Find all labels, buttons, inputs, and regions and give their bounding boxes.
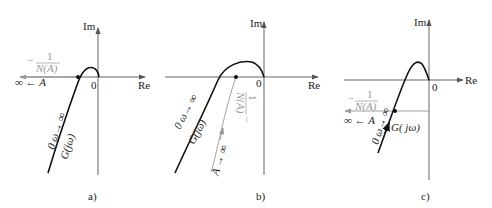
panel-b: Im Re 0 1 N(A) − A → ∞ 0 ω→ ∞ G(jω) b): [165, 17, 320, 203]
amplitude-label: ∞ ← A: [344, 114, 375, 126]
caption-a: a): [88, 190, 97, 203]
re-label: Re: [465, 74, 477, 86]
nyquist-curve: [378, 62, 429, 153]
describing-fn-num: 1: [367, 88, 373, 100]
describing-fn-minus: −: [348, 92, 354, 104]
curve-label: G( jω): [391, 121, 420, 134]
describing-fn-num: 1: [247, 95, 259, 101]
describing-fn-den: N(A): [354, 100, 377, 113]
origin-label: 0: [256, 77, 262, 89]
amplitude-label: A → ∞: [208, 143, 229, 177]
intersection-point: [393, 109, 397, 113]
im-label: Im: [250, 17, 263, 29]
amplitude-label: ∞ ← A: [15, 76, 46, 88]
curve-label: G(jω): [185, 117, 209, 146]
describing-fn-minus: −: [27, 54, 33, 66]
describing-fn-den: N(A): [35, 62, 58, 75]
im-label: Im: [414, 16, 427, 28]
intersection-point: [76, 75, 80, 79]
describing-fn-num: 1: [47, 50, 53, 62]
panel-c: Im Re 0 − 1 N(A) ∞ ← A 0 ω→ ∞ G( jω) c): [344, 16, 477, 203]
nyquist-describing-function-diagrams: Im Re 0 − 1 N(A) ∞ ← A 0 ω→ ∞ G(jω) a) I…: [0, 0, 492, 208]
intersection-point: [234, 75, 238, 79]
panel-a: Im Re 0 − 1 N(A) ∞ ← A 0 ω→ ∞ G(jω) a): [15, 20, 150, 203]
origin-label: 0: [91, 79, 97, 91]
describing-fn-minus: −: [241, 116, 253, 122]
re-label: Re: [138, 79, 150, 91]
caption-b: b): [256, 190, 266, 203]
caption-c: c): [421, 190, 430, 203]
re-label: Re: [308, 79, 320, 91]
im-label: Im: [83, 20, 96, 32]
describing-fn-den: N(A): [234, 91, 247, 114]
origin-label: 0: [432, 81, 438, 93]
